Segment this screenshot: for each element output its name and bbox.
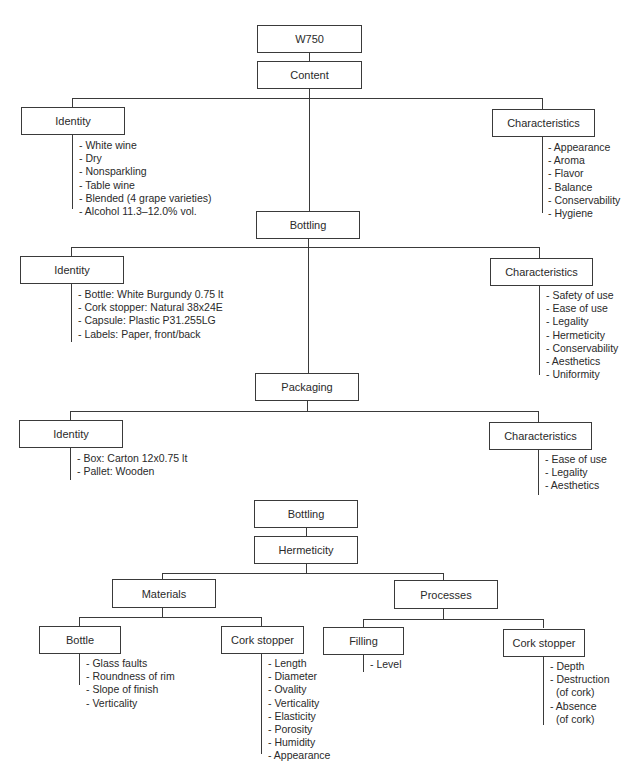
list-item-continuation: (of cork) [550, 713, 610, 726]
bottling-characteristics-list: - Safety of use - Ease of use - Legality… [546, 289, 618, 381]
connector [309, 53, 310, 61]
list-item: - Appearance [268, 749, 330, 762]
list-item: - Legality [545, 466, 607, 479]
list-item: - Pallet: Wooden [77, 465, 187, 478]
connector-spine [308, 239, 309, 373]
content-identity-list: - White wine - Dry - Nonsparkling - Tabl… [79, 139, 212, 218]
list-item: - Capsule: Plastic P31.255LG [78, 314, 223, 327]
connector-branch [70, 411, 539, 412]
connector [306, 564, 307, 573]
list-bar [542, 137, 543, 213]
node-materials: Materials [112, 579, 216, 608]
list-bar [71, 284, 72, 342]
node-packaging-identity: Identity [19, 420, 123, 448]
list-item: - Hygiene [548, 207, 620, 220]
connector [443, 609, 444, 619]
node-processes: Processes [394, 580, 498, 609]
list-item: - Aesthetics [545, 479, 607, 492]
list-item: - Balance [548, 181, 620, 194]
list-bar [539, 286, 540, 375]
list-item: - Labels: Paper, front/back [78, 328, 223, 341]
list-item: - White wine [79, 139, 212, 152]
connector [162, 608, 163, 617]
list-item: - Nonsparkling [79, 165, 212, 178]
connector-branch [162, 573, 444, 574]
materials-cork-stopper-list: - Length - Diameter - Ovality - Vertical… [268, 657, 330, 763]
content-characteristics-list: - Appearance - Aroma - Flavor - Balance … [548, 141, 620, 220]
connector [543, 619, 544, 628]
list-item: - Elasticity [268, 710, 330, 723]
packaging-identity-list: - Box: Carton 12x0.75 lt - Pallet: Woode… [77, 452, 187, 478]
list-bar [543, 657, 544, 725]
connector [72, 98, 73, 107]
node-content: Content [257, 61, 362, 89]
connector-spine [309, 89, 310, 211]
connector-branch [363, 619, 544, 620]
connector [538, 411, 539, 422]
connector [261, 617, 262, 626]
list-item: - Uniformity [546, 368, 618, 381]
list-item: - Humidity [268, 736, 330, 749]
connector [363, 619, 364, 627]
connector [539, 247, 540, 258]
list-item: - Absence [550, 700, 610, 713]
connector-branch [72, 98, 543, 99]
list-item: - Verticality [86, 697, 175, 710]
list-bar [261, 654, 262, 754]
node-bottle: Bottle [39, 626, 121, 654]
list-item: - Table wine [79, 179, 212, 192]
list-bar [70, 448, 71, 480]
node-bottling-identity: Identity [20, 256, 124, 284]
list-item: - Conservability [546, 342, 618, 355]
node-processes-cork-stopper: Cork stopper [503, 629, 585, 657]
node-hermeticity: Hermeticity [254, 536, 358, 564]
list-item: - Alcohol 11.3–12.0% vol. [79, 205, 212, 218]
list-item: - Diameter [268, 670, 330, 683]
node-bottling-characteristics: Characteristics [490, 258, 593, 286]
node-filling: Filling [323, 627, 404, 655]
list-item: - Cork stopper: Natural 38x24E [78, 301, 223, 314]
list-item: - Hermeticity [546, 329, 618, 342]
node-bottling-root: Bottling [254, 500, 358, 528]
connector [70, 411, 71, 420]
list-item: - Slope of finish [86, 683, 175, 696]
connector [71, 247, 72, 256]
list-item: - Porosity [268, 723, 330, 736]
list-item: - Glass faults [86, 657, 175, 670]
connector [79, 617, 80, 626]
bottle-list: - Glass faults - Roundness of rim - Slop… [86, 657, 175, 710]
node-packaging: Packaging [255, 373, 359, 401]
list-item: - Conservability [548, 194, 620, 207]
processes-cork-stopper-list: - Depth - Destruction (of cork) - Absenc… [550, 660, 610, 726]
list-item: - Safety of use [546, 289, 618, 302]
list-item: - Verticality [268, 697, 330, 710]
list-item: - Ease of use [545, 453, 607, 466]
list-item: - Depth [550, 660, 610, 673]
node-bottling: Bottling [256, 211, 360, 239]
list-item: - Ease of use [546, 302, 618, 315]
list-item: - Length [268, 657, 330, 670]
connector [306, 528, 307, 536]
list-bar [538, 450, 539, 495]
list-item: - Blended (4 grape varieties) [79, 192, 212, 205]
list-item: - Destruction [550, 673, 610, 686]
packaging-characteristics-list: - Ease of use - Legality - Aesthetics [545, 453, 607, 493]
connector-branch [71, 247, 540, 248]
node-packaging-characteristics: Characteristics [489, 422, 592, 450]
connector [542, 98, 543, 109]
list-item-continuation: (of cork) [550, 686, 610, 699]
connector-branch [79, 617, 262, 618]
list-item: - Dry [79, 152, 212, 165]
node-content-identity: Identity [21, 107, 125, 135]
bottling-identity-list: - Bottle: White Burgundy 0.75 lt - Cork … [78, 288, 223, 341]
connector [307, 401, 308, 411]
list-item: - Appearance [548, 141, 620, 154]
list-bar [363, 655, 364, 672]
list-item: - Roundness of rim [86, 670, 175, 683]
list-item: - Level [370, 658, 402, 671]
list-item: - Flavor [548, 167, 620, 180]
list-item: - Legality [546, 315, 618, 328]
list-bar [79, 654, 80, 685]
list-item: - Aroma [548, 154, 620, 167]
list-item: - Aesthetics [546, 355, 618, 368]
